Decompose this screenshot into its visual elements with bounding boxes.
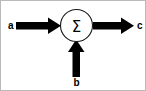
arrow-shaft-b: [73, 51, 81, 77]
arrow-shaft-c: [93, 22, 122, 30]
arrow-head-c: [121, 18, 134, 35]
signal-label-a: a: [8, 20, 14, 31]
signal-label-b: b: [73, 77, 79, 88]
summing-junction-diagram: Σ a c b: [1, 1, 145, 90]
sigma-symbol: Σ: [72, 18, 81, 36]
block-diagram-canvas: Σ a c b: [0, 0, 146, 91]
input-arrow-a: [16, 18, 61, 35]
signal-label-c: c: [137, 20, 143, 31]
input-arrow-b: [68, 40, 85, 78]
output-arrow-c: [93, 18, 134, 35]
arrow-shaft-a: [16, 22, 49, 30]
arrow-head-a: [48, 18, 61, 35]
